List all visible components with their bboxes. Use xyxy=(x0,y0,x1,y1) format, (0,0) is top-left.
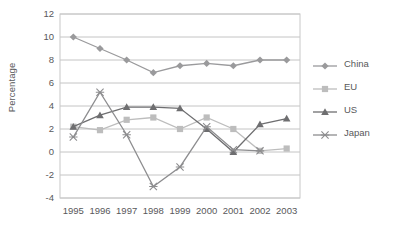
x-tick-label: 1997 xyxy=(116,206,137,216)
x-tick-label: 2001 xyxy=(223,206,244,216)
data-point-diamond xyxy=(321,62,328,69)
x-tick-label: 1996 xyxy=(89,206,110,216)
legend-item-label: US xyxy=(344,104,357,115)
legend-item-china[interactable]: China xyxy=(312,52,394,75)
x-tick-label: 1998 xyxy=(143,206,164,216)
legend-item-label: China xyxy=(344,58,369,69)
legend-item-eu[interactable]: EU xyxy=(312,75,394,98)
legend-item-us[interactable]: US xyxy=(312,98,394,121)
chart-legend: ChinaEUUSJapan xyxy=(312,52,394,144)
x-tick-label: 1995 xyxy=(63,206,84,216)
legend-item-label: Japan xyxy=(344,127,370,138)
x-tick-label: 2003 xyxy=(276,206,297,216)
cross-icon xyxy=(312,127,338,139)
data-point-cross xyxy=(321,131,329,138)
x-tick-label: 2002 xyxy=(249,206,270,216)
square-icon xyxy=(312,81,338,93)
x-tick-label: 2000 xyxy=(196,206,217,216)
legend-item-japan[interactable]: Japan xyxy=(312,121,394,144)
diamond-icon xyxy=(312,58,338,70)
legend-item-label: EU xyxy=(344,81,357,92)
triangle-icon xyxy=(312,104,338,116)
line-chart: Percentage 121086420-2-4 199519961997199… xyxy=(0,0,395,230)
x-tick-label: 1999 xyxy=(169,206,190,216)
data-point-square xyxy=(322,85,328,91)
